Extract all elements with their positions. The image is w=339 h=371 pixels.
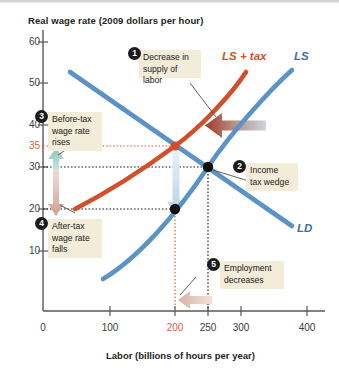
annotation-badge-3: 3	[35, 110, 48, 123]
marker-before-tax-equilibrium	[203, 162, 213, 172]
employment-decrease-arrow	[178, 291, 212, 309]
annotation-3-line-1: Before-tax	[52, 114, 98, 126]
marker-after-tax-equilibrium	[170, 141, 179, 150]
annotation-4-line-3: falls	[52, 244, 98, 256]
annotation-badge-2: 2	[233, 160, 246, 173]
annotation-4-line-2: wage rate	[52, 233, 98, 245]
annotation-3-line-3: rises	[52, 137, 98, 149]
annotation-1-line-2: supply of labor	[143, 64, 197, 87]
annotation-callout-4: After-tax wage rate falls	[48, 219, 102, 258]
annotation-callout-1: Decrease in supply of labor	[139, 50, 201, 78]
annotation-5-line-2: decreases	[224, 275, 280, 287]
annotation-2-line-2: tax wedge	[250, 177, 294, 189]
annotation-2-line-1: Income	[250, 165, 294, 177]
annotation-badge-1: 1	[128, 47, 141, 60]
supply-shift-arrow	[205, 113, 266, 138]
annotation-5-line-1: Employment	[224, 263, 280, 275]
annotation-badge-5: 5	[207, 258, 220, 271]
annotation-callout-3: Before-tax wage rate rises	[48, 112, 102, 151]
annotation-callout-2: Income tax wedge	[246, 163, 298, 191]
marker-after-tax-wage-point	[170, 204, 180, 214]
annotation-4-line-1: After-tax	[52, 221, 98, 233]
annotation-3-line-2: wage rate	[52, 126, 98, 138]
annotation-callout-5: Employment decreases	[220, 261, 284, 289]
before-tax-wage-rise-arrow	[48, 148, 64, 172]
chart-figure: Real wage rate (2009 dollars per hour) L…	[0, 0, 339, 371]
annotation-badge-4: 4	[35, 217, 48, 230]
annotation-1-line-1: Decrease in	[143, 52, 197, 64]
